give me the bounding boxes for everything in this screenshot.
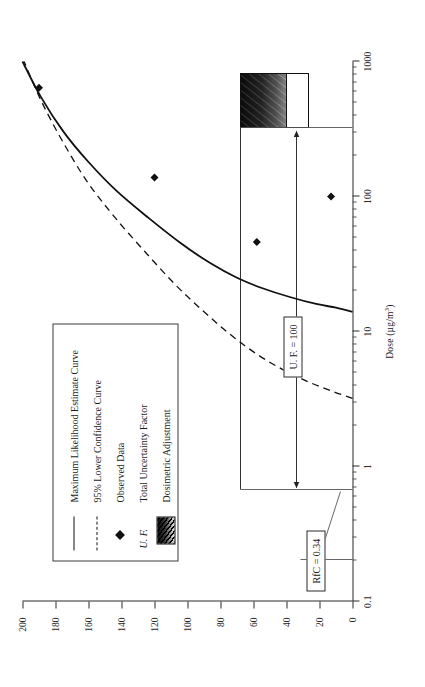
x-minor-tick [352, 266, 356, 267]
diamond-marker-icon [116, 508, 123, 550]
x-minor-tick [352, 101, 356, 102]
x-minor-tick [352, 506, 356, 507]
solid-line-icon [73, 508, 74, 550]
x-minor-tick [352, 336, 356, 337]
x-minor-tick [352, 343, 356, 344]
hatch-swatch-icon [156, 508, 175, 550]
x-minor-tick [352, 249, 356, 250]
x-minor-tick [352, 371, 356, 372]
observed-data-points [35, 83, 335, 245]
x-minor-tick [352, 424, 356, 425]
observed-data-marker [252, 238, 260, 246]
x-minor-tick [352, 66, 356, 67]
chart-figure: 0.11101001000 02040608010012014016018020… [0, 0, 425, 687]
y-tick-label-100: 100 [182, 617, 192, 687]
chart-legend: Maximum Likelihood Estimate Curve 95% Lo… [52, 323, 178, 561]
legend-label-mle: Maximum Likelihood Estimate Curve [68, 350, 79, 508]
y-tick-label-60: 60 [248, 617, 258, 687]
legend-label-observed: Observed Data [114, 442, 125, 508]
x-tick-label-1: 1 [362, 463, 372, 468]
legend-label-uf: Total Uncertainty Factor [137, 404, 148, 508]
x-minor-tick [352, 289, 356, 290]
x-minor-tick [352, 236, 356, 237]
x-minor-tick [352, 486, 356, 487]
y-tick-label-80: 80 [215, 617, 225, 687]
y-tick-100 [187, 601, 188, 608]
x-tick-100 [352, 195, 359, 196]
y-tick-label-160: 160 [83, 617, 93, 687]
legend-item-observed: Observed Data [108, 334, 131, 550]
x-minor-tick [352, 114, 356, 115]
x-minor-tick [352, 401, 356, 402]
x-tick-1000 [352, 60, 359, 61]
uf-prefix-text: U. F. [137, 528, 148, 548]
x-minor-tick [352, 131, 356, 132]
y-tick-40 [286, 601, 287, 608]
x-minor-tick [352, 495, 356, 496]
y-tick-label-0: 0 [347, 617, 357, 687]
y-tick-20 [319, 601, 320, 608]
legend-label-dosimetric: Dosimetric Adjustment [160, 409, 171, 508]
y-tick-label-20: 20 [314, 617, 324, 687]
observed-data-marker [327, 192, 335, 200]
x-minor-tick [352, 471, 356, 472]
x-axis-title: Dose (µg/m3) [382, 61, 394, 601]
y-tick-label-140: 140 [116, 617, 126, 687]
y-tick-label-40: 40 [281, 617, 291, 687]
x-tick-10 [352, 330, 359, 331]
y-tick-0 [352, 601, 353, 608]
y-tick-180 [55, 601, 56, 608]
dosimetric-adjustment-region [240, 73, 308, 127]
dashed-line-icon [96, 508, 97, 550]
x-minor-tick [352, 208, 356, 209]
x-minor-tick [352, 559, 356, 560]
x-minor-tick [352, 360, 356, 361]
x-minor-tick [352, 201, 356, 202]
uf-annotation-box: U. F. = 100 [283, 316, 302, 377]
x-tick-label-100: 100 [362, 188, 372, 203]
x-tick-label-10: 10 [362, 326, 372, 336]
x-axis-title-main: Dose (µg/m [384, 311, 394, 358]
observed-data-marker [150, 173, 158, 181]
x-minor-tick [352, 519, 356, 520]
legend-item-dosimetric: Dosimetric Adjustment [154, 334, 177, 550]
x-tick-label-1000: 1000 [362, 51, 372, 71]
x-minor-tick [352, 351, 356, 352]
rfc-annotation-box: RfC = 0.34 [306, 530, 325, 591]
legend-item-lcl: 95% Lower Confidence Curve [85, 334, 108, 550]
y-tick-60 [253, 601, 254, 608]
x-minor-tick [352, 81, 356, 82]
legend-item-uf: U. F. Total Uncertainty Factor [131, 334, 154, 550]
figure-page: 0.11101001000 02040608010012014016018020… [0, 0, 425, 687]
x-tick-1 [352, 465, 359, 466]
observed-data-marker [35, 83, 43, 91]
x-minor-tick [352, 384, 356, 385]
x-axis-title-exponent: 3 [382, 307, 390, 311]
y-tick-label-200: 200 [17, 617, 27, 687]
x-minor-tick [352, 216, 356, 217]
uf-abbrev-label: U. F. [137, 508, 148, 550]
x-minor-tick [352, 90, 356, 91]
x-minor-tick [352, 478, 356, 479]
legend-label-lcl: 95% Lower Confidence Curve [91, 380, 102, 508]
x-minor-tick [352, 225, 356, 226]
y-tick-label-120: 120 [149, 617, 159, 687]
x-minor-tick [352, 73, 356, 74]
mle-curve [22, 61, 352, 311]
x-minor-tick [352, 536, 356, 537]
x-minor-tick [352, 154, 356, 155]
y-tick-120 [154, 601, 155, 608]
y-tick-160 [88, 601, 89, 608]
x-axis-title-close: ) [384, 304, 394, 307]
y-tick-80 [220, 601, 221, 608]
y-tick-label-180: 180 [50, 617, 60, 687]
y-tick-200 [22, 601, 23, 608]
uncertainty-factor-arrow [240, 127, 352, 489]
legend-item-mle: Maximum Likelihood Estimate Curve [62, 334, 85, 550]
x-tick-label-0.1: 0.1 [362, 595, 372, 608]
y-tick-140 [121, 601, 122, 608]
